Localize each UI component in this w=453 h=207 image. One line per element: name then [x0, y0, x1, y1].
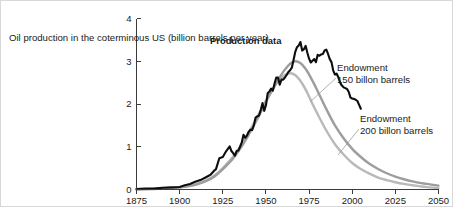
- annotation-endowment-200: Endowment 200 billon barrels: [360, 113, 433, 137]
- x-tick-label: 2000: [342, 195, 363, 206]
- series-line-production-data: [137, 42, 361, 189]
- y-tick-label: 0: [126, 184, 131, 195]
- chart-figure: 0123418751900192519501975200020252050 Oi…: [0, 0, 453, 207]
- y-axis-title-line-1: Oil production in the: [9, 32, 94, 43]
- x-tick-label: 1900: [169, 195, 190, 206]
- annotation-endowment-200-line-2: 200 billon barrels: [360, 125, 433, 137]
- y-tick-label: 3: [126, 56, 131, 67]
- y-axis-title-line-2: coterminous US: [97, 32, 165, 43]
- x-tick-label: 2050: [428, 195, 449, 206]
- x-tick-label: 1975: [299, 195, 320, 206]
- annotation-production-data-line-1: Production data: [210, 35, 281, 47]
- y-tick-label: 4: [126, 13, 131, 24]
- annotation-production-data: Production data: [210, 35, 281, 47]
- y-tick-label: 1: [126, 141, 131, 152]
- axes-layer: [137, 19, 439, 194]
- x-tick-label: 1875: [126, 195, 147, 206]
- y-axis-title: Oil production in the coterminous US (bi…: [9, 32, 129, 44]
- annotation-endowment-150-line-1: Endowment: [337, 62, 410, 74]
- x-tick-label: 2025: [385, 195, 406, 206]
- annotation-endowment-150-line-2: 150 billon barrels: [337, 74, 410, 86]
- x-tick-label: 1950: [255, 195, 276, 206]
- annotation-endowment-150: Endowment 150 billon barrels: [337, 62, 410, 86]
- annotation-endowment-200-line-1: Endowment: [360, 113, 433, 125]
- y-tick-label: 2: [126, 98, 131, 109]
- x-tick-label: 1925: [212, 195, 233, 206]
